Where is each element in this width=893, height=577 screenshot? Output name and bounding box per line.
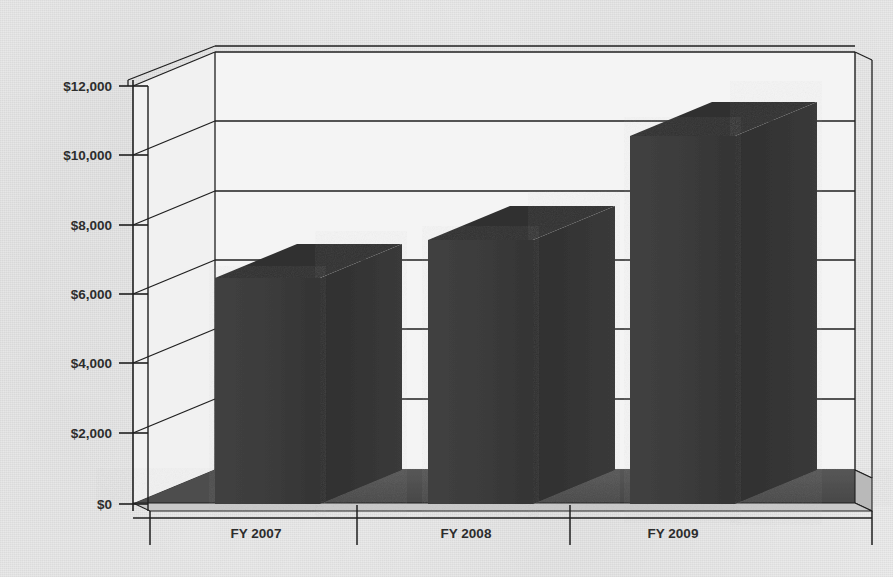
ytick-label-10000: $10,000 <box>63 148 112 163</box>
bar-side-fy2008 <box>533 206 615 504</box>
xtick-label-fy2007: FY 2007 <box>231 526 282 541</box>
bar-chart-3d: $12,000 $10,000 $8,000 $6,000 $4,000 $2,… <box>0 0 893 577</box>
ytick-label-0: $0 <box>97 497 112 512</box>
bar-side-fy2009 <box>735 102 817 504</box>
bar-group-fy2008[interactable] <box>428 206 615 504</box>
ytick-label-6000: $6,000 <box>71 287 112 302</box>
ytick-label-4000: $4,000 <box>71 356 112 371</box>
bar-front-fy2007 <box>215 278 320 504</box>
bar-front-fy2009 <box>630 136 735 504</box>
wall-right-rim <box>855 52 872 478</box>
bar-group-fy2007[interactable] <box>215 244 402 504</box>
category-axis-labels: FY 2007 FY 2008 FY 2009 <box>231 526 699 541</box>
chart-canvas: $12,000 $10,000 $8,000 $6,000 $4,000 $2,… <box>0 0 893 577</box>
plot-floor-front-band <box>133 503 872 511</box>
ytick-label-8000: $8,000 <box>71 218 112 233</box>
value-axis-labels: $12,000 $10,000 $8,000 $6,000 $4,000 $2,… <box>63 79 112 512</box>
xtick-label-fy2009: FY 2009 <box>648 526 699 541</box>
plot-left-wall <box>133 52 215 504</box>
ytick-label-2000: $2,000 <box>71 426 112 441</box>
bar-side-fy2007 <box>320 244 402 504</box>
bar-group-fy2009[interactable] <box>630 102 817 504</box>
xtick-label-fy2008: FY 2008 <box>441 526 492 541</box>
bar-front-fy2008 <box>428 240 533 504</box>
ytick-label-12000: $12,000 <box>63 79 112 94</box>
